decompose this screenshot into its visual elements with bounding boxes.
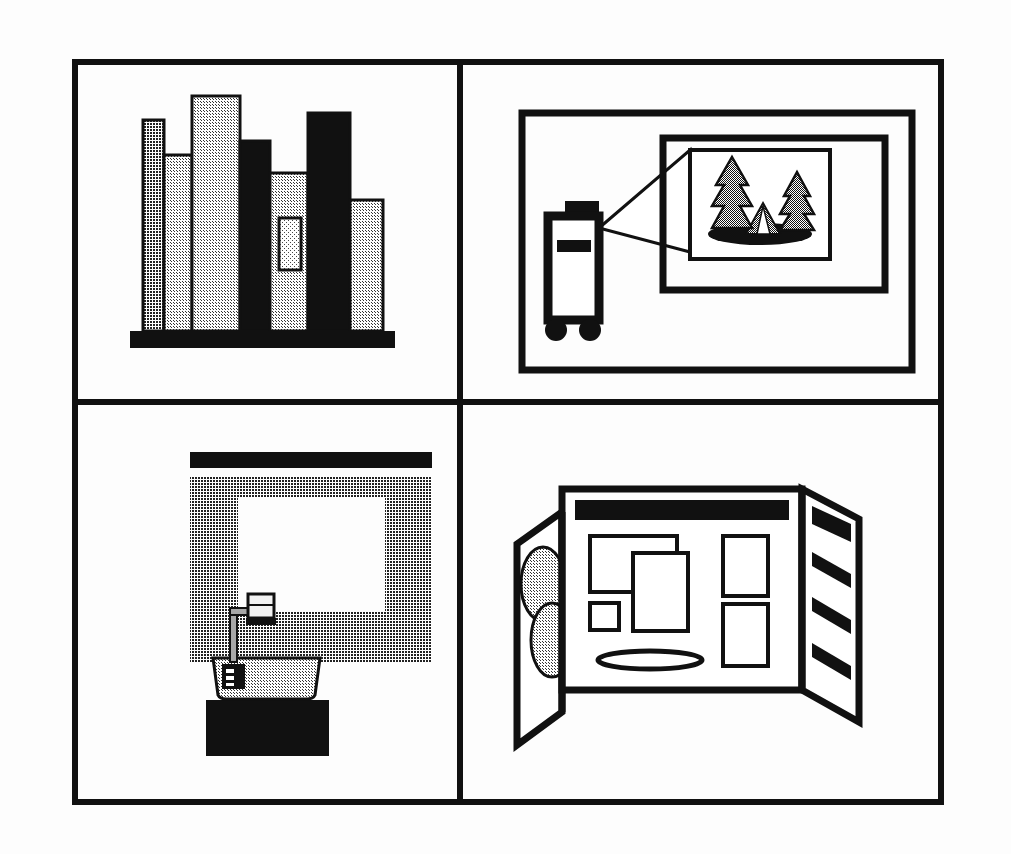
poster-card-right-bottom[interactable] <box>723 604 768 666</box>
cart-frame <box>548 216 599 320</box>
cart-wheel-right <box>579 319 601 341</box>
projector-arm <box>230 608 237 662</box>
shelf-board <box>130 331 395 348</box>
projector-table <box>206 700 329 756</box>
control-light-2 <box>226 676 234 680</box>
center-panel[interactable] <box>562 489 802 690</box>
control-light-1 <box>226 669 234 673</box>
screen-valance-bar <box>190 452 432 468</box>
slide-projector-cart[interactable] <box>545 201 601 341</box>
control-light-3 <box>226 683 234 686</box>
clipart-figure: Presentation and Instructional Media Cli… <box>0 0 1011 854</box>
poster-card-tall[interactable] <box>633 553 688 631</box>
book-6[interactable] <box>308 113 350 331</box>
center-header-bar <box>575 500 789 520</box>
footer-ellipse <box>598 651 702 669</box>
cart-shelf <box>557 240 591 252</box>
cart-wheel-left <box>545 319 567 341</box>
figure-canvas: Presentation and Instructional Media Cli… <box>0 0 1011 854</box>
book-3[interactable] <box>192 96 240 331</box>
right-wing-panel[interactable] <box>802 489 859 722</box>
book-2[interactable] <box>164 155 192 331</box>
book-4[interactable] <box>240 141 270 331</box>
projector-head-base <box>246 618 276 625</box>
poster-card-small[interactable] <box>590 603 619 630</box>
book-7[interactable] <box>350 200 383 331</box>
book-1[interactable] <box>143 120 164 331</box>
book-spine-label <box>279 218 301 270</box>
poster-card-right-top[interactable] <box>723 536 768 596</box>
